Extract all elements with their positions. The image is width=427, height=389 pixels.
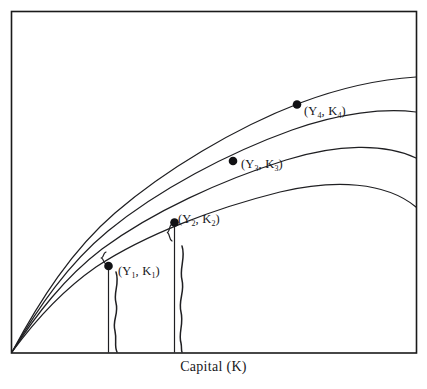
chart-canvas — [0, 0, 427, 389]
point-label-1-mid: , K — [136, 264, 152, 278]
point-label-4-mid: , K — [322, 104, 338, 118]
point-label-3-sub1: 3 — [255, 164, 259, 173]
point-label-4: (Y4, K4) — [304, 105, 346, 118]
point-label-3-mid: , K — [259, 157, 275, 171]
point-label-1-sub2: 1 — [151, 271, 155, 280]
point-label-2-sub2: 2 — [211, 219, 215, 228]
point-label-3-suffix: ) — [278, 157, 282, 171]
point-label-1-prefix: (Y — [118, 264, 132, 278]
point-label-1-suffix: ) — [155, 264, 159, 278]
point-label-2-mid: , K — [196, 212, 212, 226]
point-label-2-prefix: (Y — [178, 212, 192, 226]
point-label-3-sub2: 3 — [274, 164, 278, 173]
point-label-3: (Y3, K3) — [241, 158, 283, 171]
point-label-2: (Y2, K2) — [178, 213, 220, 226]
point-label-4-prefix: (Y — [304, 104, 318, 118]
point-label-1-sub1: 1 — [132, 271, 136, 280]
point-label-4-sub2: 4 — [337, 111, 341, 120]
point-label-4-sub1: 4 — [318, 111, 322, 120]
production-function-figure: (Y1, K1) (Y2, K2) (Y3, K3) (Y4, K4) Capi… — [0, 0, 427, 389]
point-label-4-suffix: ) — [341, 104, 345, 118]
plot-frame — [12, 12, 417, 354]
data-point-3[interactable] — [229, 157, 238, 166]
point-label-2-sub1: 2 — [192, 219, 196, 228]
data-point-1[interactable] — [104, 262, 113, 271]
data-point-4[interactable] — [293, 100, 302, 109]
point-label-3-prefix: (Y — [241, 157, 255, 171]
point-label-2-suffix: ) — [215, 212, 219, 226]
x-axis-label: Capital (K) — [0, 359, 427, 375]
point-label-1: (Y1, K1) — [118, 265, 160, 278]
